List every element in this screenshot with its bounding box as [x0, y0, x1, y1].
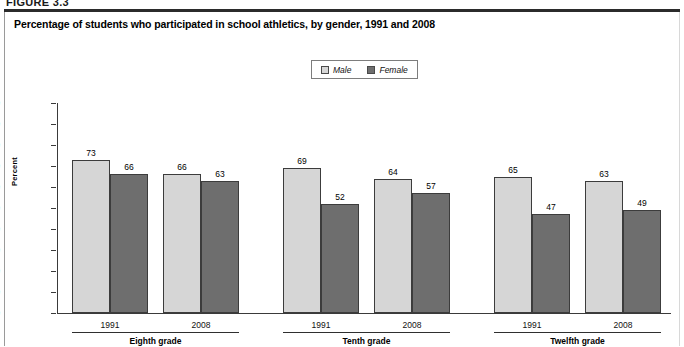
y-tick-mark — [51, 313, 56, 314]
y-tick-mark — [51, 166, 56, 167]
legend-swatch-female-icon — [367, 66, 375, 74]
x-axis-year-label: 2008 — [163, 321, 239, 330]
y-axis-title: Percent — [10, 157, 19, 186]
chart-title: Percentage of students who participated … — [14, 18, 435, 30]
bar-value-label: 66 — [110, 163, 148, 172]
x-axis-year-label: 1991 — [283, 321, 359, 330]
y-tick-mark — [51, 187, 56, 188]
chart-legend: Male Female — [311, 60, 418, 79]
bar-male-twelfth-grade-2008 — [585, 181, 623, 313]
legend-item-female: Female — [367, 65, 407, 75]
bar-value-label: 69 — [283, 157, 321, 166]
x-axis-year-label: 1991 — [72, 321, 148, 330]
bar-male-twelfth-grade-1991 — [494, 177, 532, 314]
group-label-twelfth-grade: Twelfth grade — [494, 337, 661, 346]
bar-female-eighth-grade-2008 — [201, 181, 239, 313]
x-axis-line — [57, 313, 671, 314]
group-bracket — [494, 332, 661, 333]
figure-number: FIGURE 3.3 — [6, 0, 69, 8]
bar-value-label: 66 — [163, 163, 201, 172]
y-tick-mark — [51, 271, 56, 272]
bar-female-tenth-grade-1991 — [321, 204, 359, 313]
bar-value-label: 57 — [412, 182, 450, 191]
bar-female-twelfth-grade-2008 — [623, 210, 661, 313]
group-bracket — [283, 332, 450, 333]
bar-female-tenth-grade-2008 — [412, 193, 450, 313]
group-bracket — [72, 332, 239, 333]
y-tick-mark — [51, 103, 56, 104]
bar-female-eighth-grade-1991 — [110, 174, 148, 313]
y-tick-mark — [51, 124, 56, 125]
bar-value-label: 52 — [321, 193, 359, 202]
bar-value-label: 65 — [494, 166, 532, 175]
legend-label-female: Female — [379, 65, 407, 75]
x-axis-year-label: 2008 — [374, 321, 450, 330]
y-tick-mark — [51, 292, 56, 293]
bar-value-label: 63 — [201, 170, 239, 179]
bar-female-twelfth-grade-1991 — [532, 214, 570, 313]
y-tick-mark — [51, 208, 56, 209]
y-axis-line — [57, 103, 58, 314]
y-tick-mark — [51, 229, 56, 230]
legend-swatch-male-icon — [321, 66, 329, 74]
bar-value-label: 73 — [72, 149, 110, 158]
legend-label-male: Male — [333, 65, 351, 75]
legend-item-male: Male — [321, 65, 351, 75]
y-tick-mark — [51, 250, 56, 251]
bar-value-label: 64 — [374, 168, 412, 177]
x-axis-year-label: 2008 — [585, 321, 661, 330]
group-label-eighth-grade: Eighth grade — [72, 337, 239, 346]
bar-value-label: 49 — [623, 199, 661, 208]
bar-male-eighth-grade-2008 — [163, 174, 201, 313]
bar-male-eighth-grade-1991 — [72, 160, 110, 313]
bar-male-tenth-grade-1991 — [283, 168, 321, 313]
y-tick-mark — [51, 145, 56, 146]
group-label-tenth-grade: Tenth grade — [283, 337, 450, 346]
bar-male-tenth-grade-2008 — [374, 179, 412, 313]
bar-value-label: 47 — [532, 203, 570, 212]
x-axis-year-label: 1991 — [494, 321, 570, 330]
bar-value-label: 63 — [585, 170, 623, 179]
